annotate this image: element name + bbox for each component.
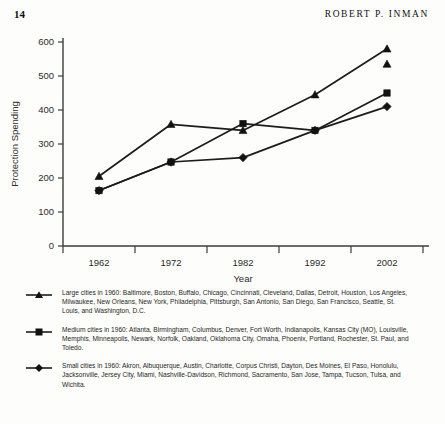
legend-text-large: Large cities in 1960: Baltimore, Boston,… xyxy=(62,288,414,316)
x-tick-label: 1962 xyxy=(88,257,109,268)
y-tick-label: 100 xyxy=(38,206,54,217)
data-point-square xyxy=(240,120,246,126)
data-point-triangle xyxy=(311,91,319,98)
y-axis-title: Protection Spending xyxy=(9,101,20,187)
running-head-title: ROBERT P. INMAN xyxy=(325,9,429,19)
data-point-square xyxy=(384,90,390,96)
x-axis-title: Year xyxy=(233,273,252,284)
y-tick-label: 400 xyxy=(38,104,54,115)
legend-marker-triangle-icon xyxy=(26,290,52,300)
legend-marker-square-icon xyxy=(26,327,52,337)
y-tick-label: 0 xyxy=(49,240,54,251)
page-number: 14 xyxy=(14,8,25,20)
data-point-triangle xyxy=(383,45,391,52)
y-tick-label: 600 xyxy=(38,36,54,47)
running-head: 14 ROBERT P. INMAN xyxy=(0,8,445,26)
legend-item-small: Small cities in 1960: Akron, Albuquerque… xyxy=(0,361,445,389)
x-tick-label: 2002 xyxy=(376,257,397,268)
x-tick-label: 1982 xyxy=(232,257,253,268)
series-line-diamond xyxy=(99,107,387,191)
series-line-square xyxy=(99,93,387,191)
y-tick-label: 300 xyxy=(38,138,54,149)
legend-text-medium: Medium cities in 1960: Atlanta, Birmingh… xyxy=(62,325,414,353)
figure-page: 14 ROBERT P. INMAN 010020030040050060019… xyxy=(0,0,445,424)
legend-item-large: Large cities in 1960: Baltimore, Boston,… xyxy=(0,288,445,316)
y-tick-label: 200 xyxy=(38,172,54,183)
legend-marker-diamond-icon xyxy=(26,363,52,373)
data-point-diamond xyxy=(383,102,391,110)
legend-item-medium: Medium cities in 1960: Atlanta, Birmingh… xyxy=(0,325,445,353)
chart-figure: 010020030040050060019621972198219922002Y… xyxy=(0,30,445,285)
chart-legend: Large cities in 1960: Baltimore, Boston,… xyxy=(0,288,445,398)
data-point-triangle xyxy=(383,60,391,67)
x-tick-label: 1972 xyxy=(160,257,181,268)
legend-text-small: Small cities in 1960: Akron, Albuquerque… xyxy=(62,361,414,389)
data-point-diamond xyxy=(239,153,247,161)
line-chart: 010020030040050060019621972198219922002Y… xyxy=(0,30,445,285)
x-tick-label: 1992 xyxy=(304,257,325,268)
y-tick-label: 500 xyxy=(38,70,54,81)
